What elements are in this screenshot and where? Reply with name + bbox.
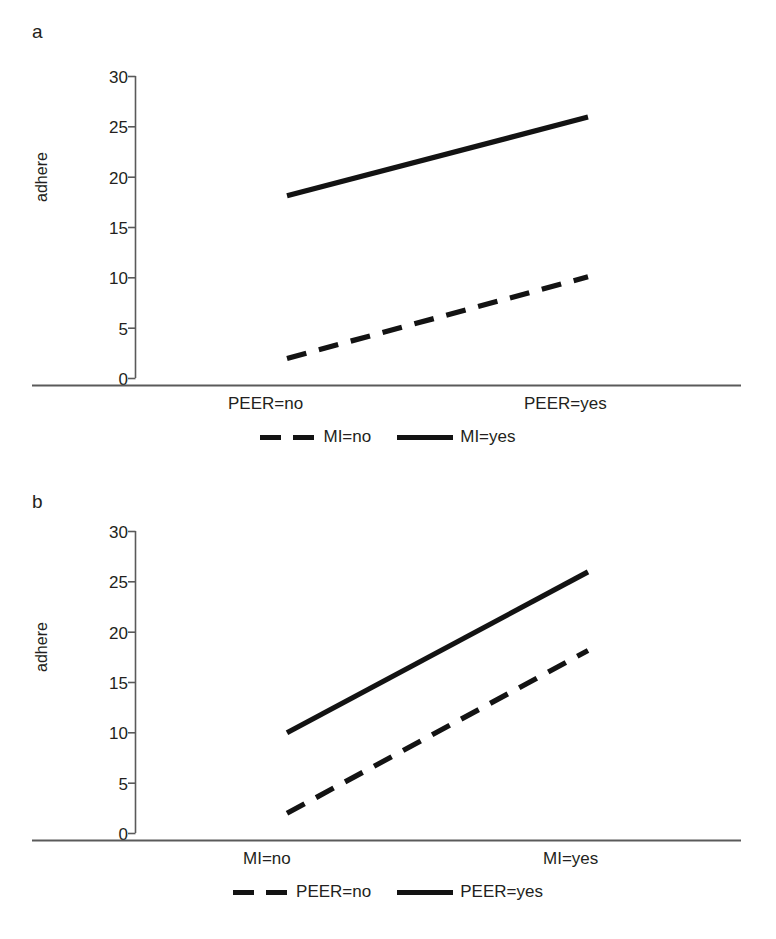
panel-b-legend-entry-peer-no: PEER=no xyxy=(233,882,371,902)
panel-b-legend-label-peer-yes: PEER=yes xyxy=(460,882,543,902)
panel-b-xtick-mi-no: MI=no xyxy=(243,850,291,867)
panel-b-legend: PEER=no PEER=yes xyxy=(0,882,776,902)
panel-a-xtick-peer-yes: PEER=yes xyxy=(524,395,607,412)
panel-a-legend-label-mi-yes: MI=yes xyxy=(460,427,515,447)
panel-a-legend-label-mi-no: MI=no xyxy=(323,427,371,447)
panel-a-plot-area xyxy=(0,0,776,470)
dashed-line-swatch-icon xyxy=(233,890,289,895)
panel-a-xtick-peer-no: PEER=no xyxy=(228,395,303,412)
figure-two-panel-interaction-plots: a adhere 30 25 20 15 10 5 0 PEER=no xyxy=(0,0,776,939)
panel-a: a adhere 30 25 20 15 10 5 0 PEER=no xyxy=(0,0,776,470)
solid-line-swatch-icon xyxy=(397,435,453,440)
panel-b-plot-area xyxy=(0,470,776,939)
panel-b-legend-entry-peer-yes: PEER=yes xyxy=(397,882,543,902)
dashed-line-swatch-icon xyxy=(260,435,316,440)
panel-b: b adhere 30 25 20 15 10 5 0 MI=no xyxy=(0,470,776,939)
panel-a-legend-entry-mi-no: MI=no xyxy=(260,427,371,447)
panel-b-xtick-mi-yes: MI=yes xyxy=(543,850,598,867)
solid-line-swatch-icon xyxy=(397,890,453,895)
panel-b-legend-label-peer-no: PEER=no xyxy=(296,882,371,902)
panel-a-legend: MI=no MI=yes xyxy=(0,427,776,447)
panel-a-legend-entry-mi-yes: MI=yes xyxy=(397,427,515,447)
